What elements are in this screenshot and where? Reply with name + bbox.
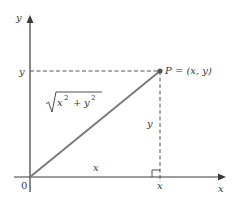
origin-label: 0: [21, 180, 27, 191]
x-axis-label: x: [218, 183, 224, 194]
height-label: y: [146, 118, 153, 129]
right-angle-marker: [152, 170, 160, 177]
svg-text:+: +: [73, 97, 81, 108]
y-tick-label: y: [18, 66, 25, 77]
point-p-label: P = (x, y): [164, 65, 212, 76]
y-axis-label: y: [15, 12, 22, 23]
svg-text:2: 2: [91, 94, 95, 102]
svg-text:y: y: [83, 97, 90, 108]
svg-text:2: 2: [64, 94, 68, 102]
distance-diagram: y y 0 x x x y P = (x, y) x 2 + y 2: [0, 0, 240, 197]
hypotenuse-label: x 2 + y 2: [46, 92, 102, 112]
svg-text:x: x: [57, 97, 63, 108]
base-label: x: [93, 162, 99, 173]
point-p: [157, 68, 162, 73]
x-axis-arrow-icon: [218, 174, 226, 181]
x-tick-label: x: [157, 180, 163, 191]
y-axis-arrow-icon: [27, 15, 34, 23]
